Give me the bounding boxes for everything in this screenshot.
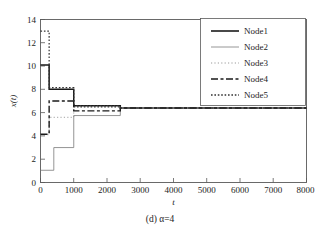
y-tick-label: 0 bbox=[32, 178, 37, 188]
x-axis-title: t bbox=[172, 197, 175, 207]
x-tick-label: 5000 bbox=[198, 185, 217, 195]
y-tick-label: 12 bbox=[27, 38, 36, 48]
x-tick-label: 8000 bbox=[297, 185, 316, 195]
x-tick-label: 2000 bbox=[98, 185, 117, 195]
series-line-node3 bbox=[41, 106, 307, 135]
x-tick-labels: 0 1000 2000 3000 4000 5000 6000 7000 800… bbox=[38, 185, 315, 195]
y-tick-labels: 0 2 4 6 8 10 12 14 bbox=[27, 15, 37, 188]
y-tick-label: 4 bbox=[32, 131, 37, 141]
legend-label: Node4 bbox=[244, 74, 268, 84]
legend: Node1 Node2 Node3 Node4 Node5 bbox=[201, 19, 306, 106]
x-tick-marks bbox=[41, 178, 307, 183]
y-axis-title: x(t) bbox=[8, 95, 18, 109]
legend-label: Node5 bbox=[244, 90, 268, 100]
x-tick-label: 7000 bbox=[264, 185, 283, 195]
figure-caption: (d) α=4 bbox=[146, 214, 175, 225]
y-tick-label: 14 bbox=[27, 15, 37, 25]
y-tick-marks bbox=[41, 20, 46, 183]
series-line-node2 bbox=[41, 108, 307, 170]
y-tick-label: 2 bbox=[32, 154, 37, 164]
x-tick-label: 1000 bbox=[65, 185, 84, 195]
x-tick-label: 0 bbox=[38, 185, 43, 195]
legend-label: Node1 bbox=[244, 26, 268, 36]
legend-label: Node2 bbox=[244, 42, 268, 52]
chart-svg: 0 2 4 6 8 10 12 14 0 1000 2000 3000 bbox=[0, 0, 320, 232]
figure-container: 0 2 4 6 8 10 12 14 0 1000 2000 3000 bbox=[0, 0, 320, 232]
x-tick-label: 3000 bbox=[131, 185, 150, 195]
y-tick-label: 6 bbox=[32, 108, 37, 118]
legend-label: Node3 bbox=[244, 58, 268, 68]
x-tick-label: 6000 bbox=[231, 185, 250, 195]
x-tick-label: 4000 bbox=[165, 185, 184, 195]
y-tick-label: 8 bbox=[32, 84, 37, 94]
y-tick-label: 10 bbox=[27, 61, 37, 71]
